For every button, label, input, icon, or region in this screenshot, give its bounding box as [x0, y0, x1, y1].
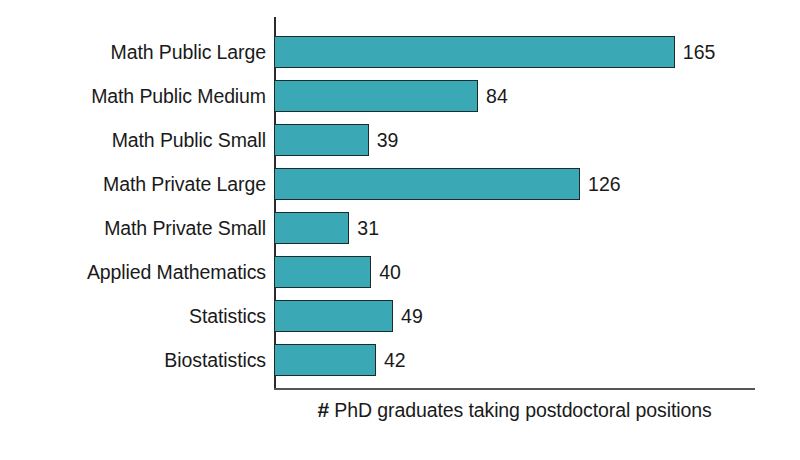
bar-row: Math Public Small39	[274, 118, 755, 162]
hash-symbol: #	[317, 398, 329, 421]
bar	[274, 80, 478, 112]
bar-row: Biostatistics42	[274, 338, 755, 382]
x-axis-label-text: PhD graduates taking postdoctoral positi…	[329, 399, 712, 421]
bar-value-label: 42	[384, 349, 406, 372]
bar-value-label: 165	[683, 41, 716, 64]
bar-value-label: 126	[588, 173, 621, 196]
bar-row: Math Public Medium84	[274, 74, 755, 118]
bar-row: Math Private Large126	[274, 162, 755, 206]
bar-row: Math Public Large165	[274, 30, 755, 74]
bar	[274, 124, 369, 156]
bar	[274, 300, 393, 332]
bar	[274, 344, 376, 376]
bar	[274, 36, 675, 68]
category-label: Math Public Large	[111, 41, 266, 64]
bar-row: Math Private Small31	[274, 206, 755, 250]
plot-area: Math Public Large165Math Public Medium84…	[274, 17, 755, 390]
x-axis-label: # PhD graduates taking postdoctoral posi…	[274, 398, 755, 422]
bar-row: Statistics49	[274, 294, 755, 338]
bar	[274, 256, 371, 288]
category-label: Math Private Large	[103, 173, 266, 196]
category-label: Math Public Small	[112, 129, 266, 152]
x-axis-line	[274, 388, 755, 390]
bar-value-label: 31	[357, 217, 379, 240]
bar-row: Applied Mathematics40	[274, 250, 755, 294]
bar-value-label: 39	[377, 129, 399, 152]
bar-value-label: 49	[401, 305, 423, 328]
bar-value-label: 40	[379, 261, 401, 284]
category-label: Statistics	[189, 305, 266, 328]
bar	[274, 212, 349, 244]
category-label: Math Public Medium	[91, 85, 266, 108]
chart-page: Math Public Large165Math Public Medium84…	[0, 0, 800, 460]
bar	[274, 168, 580, 200]
category-label: Math Private Small	[104, 217, 266, 240]
category-label: Biostatistics	[164, 349, 266, 372]
category-label: Applied Mathematics	[87, 261, 266, 284]
bar-value-label: 84	[486, 85, 508, 108]
